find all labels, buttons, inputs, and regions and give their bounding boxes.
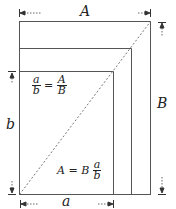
- arrow-left-icon: [21, 202, 26, 206]
- arrow-up-icon: [160, 23, 164, 28]
- label-bottom-width: a: [62, 193, 70, 209]
- label-top-width: A: [80, 3, 90, 19]
- arrow-right-icon: [145, 11, 150, 15]
- arrow-down-icon: [10, 188, 14, 193]
- area-equation: A = B ab: [57, 160, 101, 181]
- arrow-up-icon: [10, 73, 14, 78]
- ratio-equation: ab = AB: [32, 75, 67, 96]
- arrow-left-icon: [20, 11, 25, 15]
- arrow-down-icon: [160, 188, 164, 193]
- arrow-right-icon: [108, 202, 113, 206]
- label-left-height: b: [6, 116, 15, 132]
- label-right-height: B: [157, 95, 167, 111]
